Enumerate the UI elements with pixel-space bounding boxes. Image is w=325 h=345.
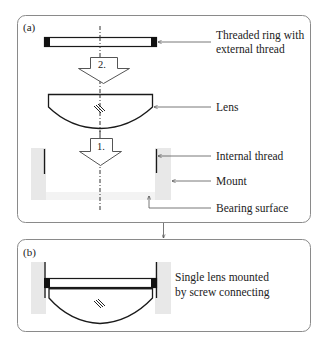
step-1-label: 1. [97, 141, 105, 152]
label-lens: Lens [216, 101, 239, 113]
lens-mounting-diagram: (a) 2. [0, 0, 325, 345]
panel-a-tag: (a) [23, 21, 36, 34]
panel-a: (a) 2. [18, 16, 311, 223]
caption-line1: Single lens mounted [175, 271, 269, 284]
label-ring-line2: external thread [216, 43, 285, 55]
label-ring-line1: Threaded ring with [216, 29, 304, 42]
assembled-ring [44, 278, 157, 288]
caption-line2: by screw connecting [175, 286, 270, 299]
label-mount: Mount [216, 175, 247, 187]
label-bearing-surface: Bearing surface [216, 202, 288, 215]
step-2-label: 2. [98, 59, 106, 70]
panel-b-tag: (b) [23, 246, 36, 259]
label-internal-thread: Internal thread [216, 150, 284, 162]
panel-b: (b) Single lens mounted by screw connect… [18, 240, 311, 332]
